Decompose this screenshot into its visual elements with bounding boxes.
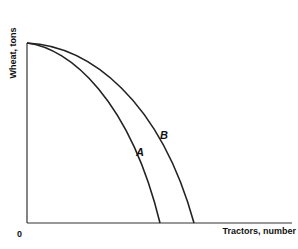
ppf-chart: Wheat, tons Tractors, number 0 A B <box>0 0 298 249</box>
x-axis-label: Tractors, number <box>222 226 296 236</box>
chart-plot <box>0 0 298 249</box>
curve-a <box>27 43 160 223</box>
y-axis-label: Wheat, tons <box>8 18 18 88</box>
curve-b <box>27 43 194 223</box>
origin-label: 0 <box>17 229 22 239</box>
curve-a-label: A <box>136 146 144 158</box>
curve-b-label: B <box>160 129 168 141</box>
